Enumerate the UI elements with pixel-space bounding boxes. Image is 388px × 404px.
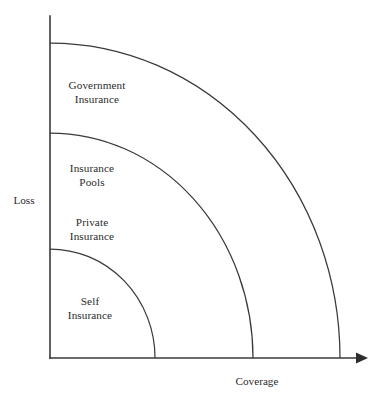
band-label-government-insurance: Government Insurance xyxy=(69,78,126,106)
band-label-line: Government xyxy=(69,78,126,92)
band-label-line: Insurance xyxy=(70,161,114,175)
band-label-private-insurance: Private Insurance xyxy=(70,215,114,243)
band-label-line: Self xyxy=(68,294,112,308)
band-label-line: Insurance xyxy=(68,308,112,322)
x-axis-arrow-icon xyxy=(356,353,368,364)
y-axis-label: Loss xyxy=(13,193,34,207)
band-label-line: Insurance xyxy=(70,229,114,243)
diagram-canvas xyxy=(0,0,388,404)
band-label-line: Pools xyxy=(70,175,114,189)
band-label-self-insurance: Self Insurance xyxy=(68,294,112,322)
band-label-line: Insurance xyxy=(69,92,126,106)
x-axis-label: Coverage xyxy=(236,374,279,388)
band-label-insurance-pools: Insurance Pools xyxy=(70,161,114,189)
band-label-line: Private xyxy=(70,215,114,229)
risk-financing-layers-diagram: Government Insurance Insurance Pools Pri… xyxy=(0,0,388,404)
